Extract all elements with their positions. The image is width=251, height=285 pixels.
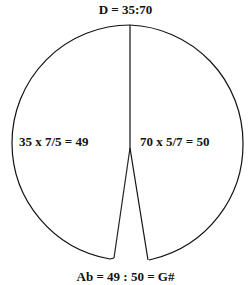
ratio-circle-diagram: D = 35:70 35 x 7/5 = 49 70 x 5/7 = 50 Ab…	[0, 0, 251, 285]
right-region-label: 70 x 5/7 = 50	[140, 135, 210, 148]
top-label: D = 35:70	[0, 3, 251, 16]
left-region-label: 35 x 7/5 = 49	[19, 135, 89, 148]
wedge-right-line	[130, 148, 148, 260]
wedge-left-line	[114, 148, 130, 258]
bottom-label: Ab = 49 : 50 = G#	[0, 270, 251, 283]
